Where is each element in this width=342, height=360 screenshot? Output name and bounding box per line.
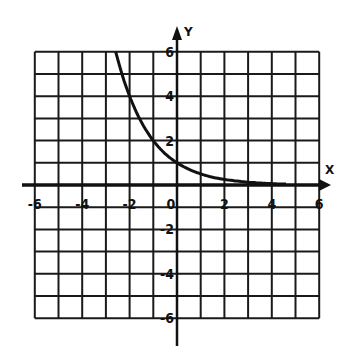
x-tick-label: 0: [167, 196, 176, 212]
y-axis-label: Y: [183, 25, 193, 39]
x-tick-label: 2: [220, 196, 229, 212]
y-tick-label: 2: [165, 133, 174, 149]
tick-labels: XY-6-4-20246642-2-4-6: [28, 25, 335, 326]
x-tick-label: 4: [267, 196, 276, 212]
x-axis-label: X: [325, 163, 335, 177]
y-tick-label: 6: [165, 44, 174, 60]
x-tick-label: -2: [123, 196, 137, 212]
y-tick-label: -6: [160, 310, 174, 326]
y-tick-label: 4: [165, 88, 174, 104]
y-tick-label: -2: [160, 221, 174, 237]
exponential-graph: XY-6-4-20246642-2-4-6: [0, 0, 342, 360]
x-tick-label: -6: [28, 196, 42, 212]
x-tick-label: -4: [75, 196, 89, 212]
y-axis-arrow-icon: [172, 26, 182, 40]
y-tick-label: -4: [160, 266, 174, 282]
x-tick-label: 6: [315, 196, 324, 212]
x-axis-arrow-icon: [319, 179, 331, 191]
